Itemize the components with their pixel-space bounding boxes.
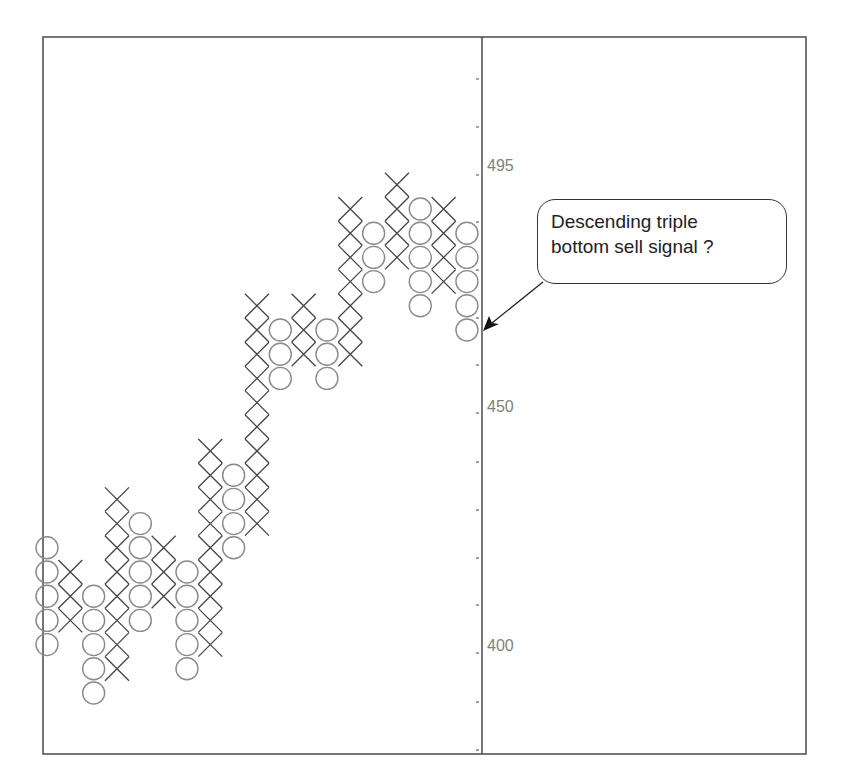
o-column: [456, 222, 478, 341]
x-box-icon: [245, 439, 269, 463]
o-box-icon: [83, 609, 105, 631]
x-box-icon: [198, 463, 222, 487]
o-box-icon: [456, 271, 478, 293]
x-box-icon: [292, 342, 316, 366]
axis-label-400: 400: [487, 638, 514, 654]
x-box-icon: [105, 487, 129, 511]
x-column: [292, 294, 316, 366]
o-box-icon: [456, 246, 478, 268]
axis-ticks: [476, 79, 479, 750]
x-column: [58, 560, 82, 632]
o-box-icon: [409, 222, 431, 244]
o-box-icon: [83, 682, 105, 704]
x-column: [338, 197, 362, 366]
x-box-icon: [245, 318, 269, 342]
o-box-icon: [36, 561, 58, 583]
x-box-icon: [198, 439, 222, 463]
arrow-head-icon: [483, 316, 499, 331]
o-box-icon: [176, 585, 198, 607]
x-column: [198, 439, 222, 657]
x-box-icon: [338, 342, 362, 366]
x-box-icon: [105, 536, 129, 560]
o-column: [223, 464, 245, 559]
o-box-icon: [176, 658, 198, 680]
o-box-icon: [269, 319, 291, 341]
o-column: [363, 222, 385, 292]
x-box-icon: [245, 415, 269, 439]
x-box-icon: [385, 245, 409, 269]
x-box-icon: [432, 270, 456, 294]
o-box-icon: [129, 561, 151, 583]
axis-label-450: 450: [487, 399, 514, 415]
o-box-icon: [223, 537, 245, 559]
x-box-icon: [105, 512, 129, 536]
x-column: [152, 536, 176, 608]
o-box-icon: [83, 658, 105, 680]
o-box-icon: [363, 246, 385, 268]
x-box-icon: [105, 657, 129, 681]
o-box-icon: [363, 271, 385, 293]
o-box-icon: [409, 295, 431, 317]
o-box-icon: [269, 343, 291, 365]
o-box-icon: [36, 634, 58, 656]
x-box-icon: [292, 318, 316, 342]
o-box-icon: [316, 343, 338, 365]
x-box-icon: [152, 584, 176, 608]
x-column: [245, 294, 269, 536]
o-box-icon: [223, 513, 245, 535]
x-box-icon: [245, 512, 269, 536]
x-box-icon: [198, 487, 222, 511]
o-column: [176, 561, 198, 680]
o-column: [409, 198, 431, 317]
x-column: [432, 197, 456, 294]
x-box-icon: [152, 536, 176, 560]
x-box-icon: [58, 584, 82, 608]
o-box-icon: [83, 634, 105, 656]
x-box-icon: [338, 270, 362, 294]
chart-frame: [43, 37, 806, 754]
x-box-icon: [338, 221, 362, 245]
o-box-icon: [176, 561, 198, 583]
x-box-icon: [58, 560, 82, 584]
callout-arrow: [483, 282, 543, 331]
x-box-icon: [198, 560, 222, 584]
o-box-icon: [176, 634, 198, 656]
x-box-icon: [432, 197, 456, 221]
o-column: [36, 537, 58, 656]
o-box-icon: [269, 367, 291, 389]
x-box-icon: [432, 245, 456, 269]
x-box-icon: [385, 173, 409, 197]
x-box-icon: [245, 342, 269, 366]
o-box-icon: [363, 222, 385, 244]
callout-line-2: bottom sell signal ?: [551, 234, 786, 259]
x-box-icon: [245, 463, 269, 487]
x-box-icon: [245, 487, 269, 511]
x-column: [385, 173, 409, 270]
o-box-icon: [36, 585, 58, 607]
point-and-figure-chart: [0, 0, 849, 783]
o-column: [129, 513, 151, 632]
x-box-icon: [198, 608, 222, 632]
x-box-icon: [338, 197, 362, 221]
x-box-icon: [385, 221, 409, 245]
x-column: [105, 487, 129, 680]
o-box-icon: [223, 464, 245, 486]
o-column: [269, 319, 291, 389]
o-box-icon: [223, 488, 245, 510]
o-box-icon: [456, 222, 478, 244]
o-box-icon: [316, 319, 338, 341]
o-box-icon: [409, 198, 431, 220]
x-box-icon: [105, 584, 129, 608]
o-box-icon: [456, 319, 478, 341]
x-box-icon: [338, 294, 362, 318]
o-box-icon: [176, 609, 198, 631]
o-box-icon: [129, 609, 151, 631]
x-box-icon: [105, 633, 129, 657]
o-box-icon: [456, 295, 478, 317]
x-box-icon: [152, 560, 176, 584]
o-box-icon: [129, 537, 151, 559]
o-box-icon: [129, 585, 151, 607]
x-box-icon: [385, 197, 409, 221]
pf-columns: [36, 173, 478, 704]
x-box-icon: [198, 512, 222, 536]
